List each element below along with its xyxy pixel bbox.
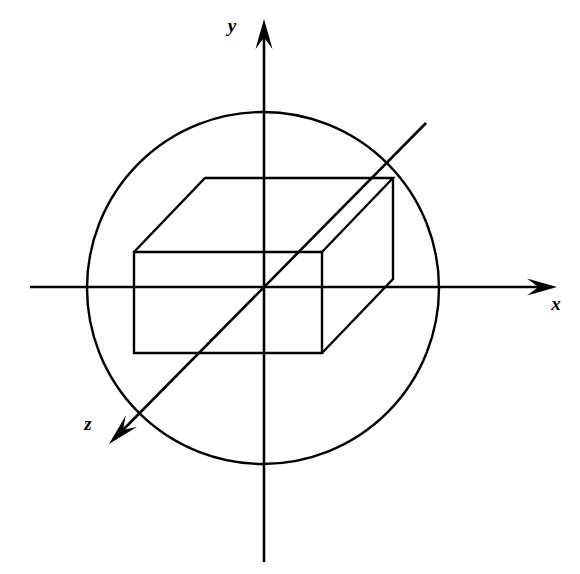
x-axis (30, 279, 557, 296)
box-front-face-outline (134, 252, 322, 353)
y-axis-label: y (226, 15, 237, 36)
z-axis-line (117, 123, 426, 436)
math-figure: x y z (0, 0, 580, 574)
box-right-face-outline (322, 178, 393, 353)
box-front-face (134, 252, 322, 353)
y-axis (256, 19, 273, 562)
x-axis-label: x (550, 293, 561, 314)
figure-container: x y z (0, 0, 580, 574)
z-axis (109, 123, 426, 444)
box-right-face (322, 178, 393, 353)
z-axis-label: z (83, 413, 92, 434)
